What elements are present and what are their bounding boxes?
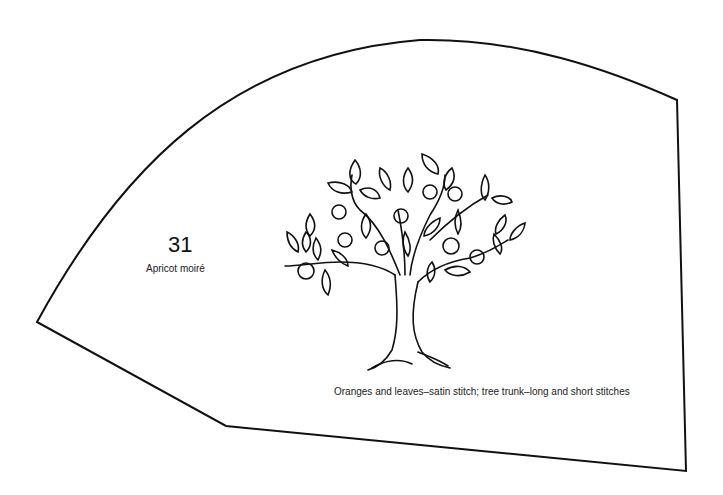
stitch-instructions-caption: Oranges and leaves–satin stitch; tree tr… [334, 386, 630, 397]
pattern-piece-outline [0, 0, 723, 495]
orange-tree-icon [285, 154, 525, 370]
color-name-label: Apricot moiré [146, 263, 205, 274]
pattern-number: 31 [168, 232, 192, 258]
pattern-outline-path [37, 40, 686, 471]
